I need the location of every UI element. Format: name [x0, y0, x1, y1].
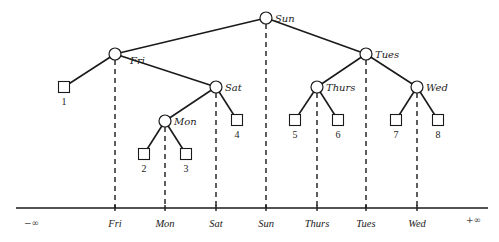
- leaf-nodes: 12345678: [59, 82, 444, 174]
- axis-tick-label: Fri: [107, 218, 122, 229]
- node-label-tues: Tues: [375, 49, 399, 60]
- leaf-square-icon: [181, 149, 192, 160]
- node-label-wed: Wed: [426, 82, 448, 93]
- leaf-square-icon: [232, 115, 243, 126]
- node-circle-icon: [210, 81, 222, 93]
- node-circle-icon: [109, 48, 121, 60]
- node-label-thurs: Thurs: [326, 82, 355, 93]
- node-label-sun: Sun: [275, 13, 295, 24]
- tree-edges: [64, 18, 438, 154]
- leaf-label: 4: [235, 129, 240, 140]
- node-label-mon: Mon: [173, 116, 197, 127]
- positive-infinity-label: +∞: [466, 215, 481, 225]
- edge-sun-fri: [115, 18, 266, 54]
- leaf-label: 7: [394, 129, 399, 140]
- leaf-square-icon: [139, 149, 150, 160]
- axis-tick-label: Sun: [258, 218, 274, 229]
- axis-tick-label: Sat: [209, 218, 224, 229]
- node-label-fri: Fri: [129, 55, 145, 66]
- node-label-sat: Sat: [225, 82, 243, 93]
- leaf-square-icon: [290, 115, 301, 126]
- node-circle-icon: [411, 81, 423, 93]
- axis-tick-label: Thurs: [305, 218, 330, 229]
- edge-fri-leaf1: [64, 54, 115, 87]
- axis-tick-label: Tues: [356, 218, 375, 229]
- leaf-label: 6: [336, 129, 341, 140]
- negative-infinity-label: −∞: [24, 218, 39, 228]
- leaf-square-icon: [59, 82, 70, 93]
- bst-diagram: FriMonSatSunThursTuesWed−∞+∞ 12345678 Su…: [0, 0, 499, 242]
- axis-tick-label: Mon: [154, 218, 174, 229]
- leaf-square-icon: [391, 115, 402, 126]
- node-circle-icon: [311, 81, 323, 93]
- leaf-label: 1: [62, 96, 67, 107]
- number-axis: FriMonSatSunThursTuesWed−∞+∞: [16, 205, 488, 229]
- leaf-square-icon: [433, 115, 444, 126]
- leaf-label: 5: [293, 129, 298, 140]
- internal-nodes: SunFriTuesSatThursWedMon: [109, 12, 448, 127]
- leaf-square-icon: [333, 115, 344, 126]
- leaf-label: 3: [184, 163, 189, 174]
- axis-tick-label: Wed: [408, 218, 426, 229]
- node-circle-icon: [159, 115, 171, 127]
- leaf-label: 8: [436, 129, 441, 140]
- leaf-label: 2: [142, 163, 147, 174]
- node-circle-icon: [360, 48, 372, 60]
- node-circle-icon: [260, 12, 272, 24]
